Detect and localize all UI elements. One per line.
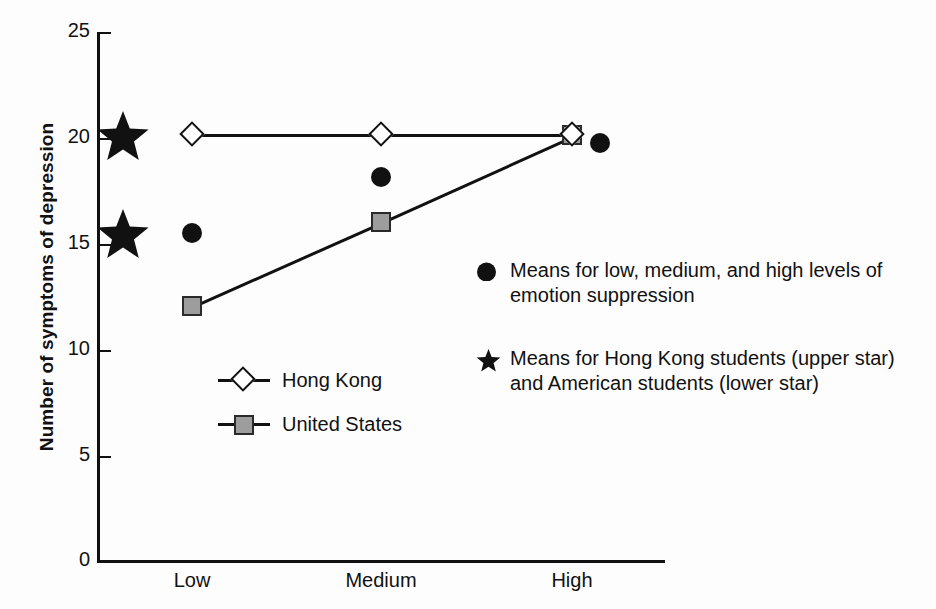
note-line-1: Means for Hong Kong students (upper star… (510, 347, 895, 369)
y-tick-label-20: 20 (30, 126, 90, 146)
marker-hong-kong-medium (368, 121, 393, 146)
y-tick-label-0: 0 (30, 549, 90, 569)
marker-united-states-medium (371, 212, 391, 232)
note-text-means-country: Means for Hong Kong students (upper star… (510, 346, 895, 396)
marker-hong-kong-high (559, 121, 584, 146)
y-tick-label-15: 15 (30, 232, 90, 252)
legend-item-hong-kong[interactable]: Hong Kong (218, 358, 402, 402)
y-tick-20 (100, 138, 111, 140)
black-star-icon (476, 346, 510, 377)
marker-united-states-low (182, 296, 202, 316)
note-line-2: and American students (lower star) (510, 372, 819, 394)
y-axis-title: Number of symptoms of depression (36, 27, 58, 547)
note-text-means-suppression: Means for low, medium, and high levels o… (510, 258, 882, 308)
black-circle-icon (476, 258, 510, 285)
y-tick-label-25: 25 (30, 20, 90, 40)
marker-mean-suppression-medium (371, 167, 391, 187)
y-tick-label-5: 5 (30, 444, 90, 464)
united-states-line-segment-1 (192, 222, 382, 309)
marker-mean-american-star (96, 208, 150, 260)
y-tick-label-10: 10 (30, 338, 90, 358)
marker-mean-suppression-high (590, 133, 610, 153)
y-tick-10 (100, 350, 111, 352)
hong-kong-line (192, 134, 572, 137)
legend-label-united-states: United States (282, 413, 402, 436)
x-tick-label-high: High (492, 570, 652, 590)
note-line-2: emotion suppression (510, 284, 695, 306)
note-item-means-country: Means for Hong Kong students (upper star… (476, 346, 926, 396)
x-tick-label-medium: Medium (301, 570, 461, 590)
legend-item-united-states[interactable]: United States (218, 402, 402, 446)
open-diamond-icon (230, 366, 255, 391)
united-states-line-segment-2 (381, 136, 573, 225)
y-axis-line (97, 32, 100, 563)
legend-label-hong-kong: Hong Kong (282, 369, 382, 392)
chart-figure: Number of symptoms of depression 25 20 1… (0, 0, 936, 609)
series-legend: Hong Kong United States (218, 358, 402, 446)
gray-square-icon (234, 415, 254, 435)
note-line-1: Means for low, medium, and high levels o… (510, 259, 882, 281)
marker-hong-kong-low (179, 121, 204, 146)
marker-united-states-high (562, 125, 582, 145)
y-tick-15 (100, 244, 111, 246)
marker-mean-suppression-low (182, 223, 202, 243)
x-tick-label-low: Low (112, 570, 272, 590)
note-legend: Means for low, medium, and high levels o… (476, 258, 926, 434)
note-item-means-suppression: Means for low, medium, and high levels o… (476, 258, 926, 308)
legend-sample-united-states (218, 414, 270, 434)
y-tick-5 (100, 456, 111, 458)
legend-sample-hong-kong (218, 370, 270, 390)
y-tick-25 (100, 32, 111, 34)
marker-mean-hong-kong-star (96, 110, 150, 162)
x-axis-line (97, 560, 665, 563)
